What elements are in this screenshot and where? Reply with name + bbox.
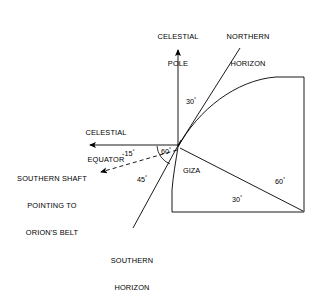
southern-shaft-label-line1: SOUTHERN SHAFT bbox=[6, 174, 98, 183]
celestial-pole-label: CELESTIAL POLE bbox=[146, 14, 210, 86]
horizon-arc bbox=[178, 77, 276, 147]
angle-label-60-lower: 60° bbox=[275, 178, 285, 186]
southern-horizon-ray bbox=[133, 140, 181, 228]
celestial-pole-label-line1: CELESTIAL bbox=[146, 32, 210, 41]
degree-symbol: ° bbox=[194, 96, 196, 102]
degree-symbol: ° bbox=[240, 194, 242, 200]
angle-value-60-lower: 60 bbox=[275, 177, 283, 186]
angle-value-30-lower: 30 bbox=[232, 195, 240, 204]
southern-horizon-label-line1: SOUTHERN bbox=[96, 256, 168, 265]
southern-horizon-label-line2: HORIZON bbox=[96, 283, 168, 292]
southern-shaft-label: SOUTHERN SHAFT POINTING TO ORION'S BELT bbox=[6, 156, 98, 255]
horizon-arc-lower bbox=[172, 147, 178, 190]
angle-value-minus15: -15 bbox=[122, 149, 132, 158]
northern-horizon-label-line2: HORIZON bbox=[216, 59, 280, 68]
angle-label-minus15-shaft: -15° bbox=[122, 150, 134, 158]
northern-horizon-label-line1: NORTHERN bbox=[216, 32, 280, 41]
angle-value-60-vertex: 60 bbox=[161, 147, 169, 156]
degree-symbol: ° bbox=[283, 176, 285, 182]
celestial-pole-label-line2: POLE bbox=[146, 59, 210, 68]
angle-value-30-pole: 30 bbox=[186, 97, 194, 106]
degree-symbol: ° bbox=[145, 174, 147, 180]
angle-value-45: 45 bbox=[137, 175, 145, 184]
southern-shaft-label-line3: ORION'S BELT bbox=[6, 228, 98, 237]
angle-label-60-vertex: 60° bbox=[161, 148, 171, 156]
celestial-equator-label-line1: CELESTIAL bbox=[73, 128, 139, 137]
angle-label-45-south: 45° bbox=[137, 176, 147, 184]
northern-horizon-label: NORTHERN HORIZON bbox=[216, 14, 280, 86]
giza-label: GIZA bbox=[183, 166, 200, 175]
degree-symbol: ° bbox=[169, 146, 171, 152]
southern-shaft-label-line2: POINTING TO bbox=[6, 201, 98, 210]
southern-horizon-label: SOUTHERN HORIZON bbox=[96, 238, 168, 294]
angle-label-30-lower: 30° bbox=[232, 196, 242, 204]
angle-label-30-pole: 30° bbox=[186, 98, 196, 106]
degree-symbol: ° bbox=[132, 148, 134, 154]
